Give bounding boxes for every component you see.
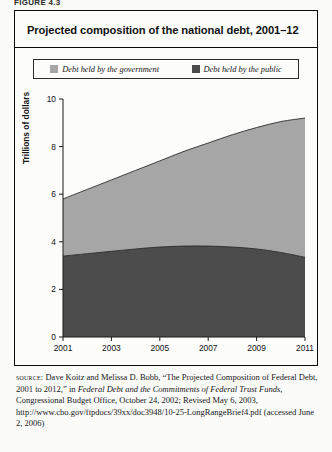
svg-text:2005: 2005: [150, 343, 169, 353]
svg-text:0: 0: [51, 332, 56, 342]
svg-text:2001: 2001: [54, 343, 73, 353]
legend-item-public: Debt held by the public: [192, 65, 282, 74]
source-italic-1: Federal Debt and the Commitments of Fede…: [78, 384, 281, 394]
svg-text:10: 10: [47, 94, 57, 104]
stacked-area-chart: 0246810200120032005200720092011: [15, 87, 319, 363]
legend-label-public: Debt held by the public: [204, 65, 282, 74]
plot-area: Trillions of dollars 0246810200120032005…: [15, 87, 319, 363]
svg-text:4: 4: [51, 237, 56, 247]
title-divider: [15, 47, 317, 48]
chart-title: Projected composition of the national de…: [27, 24, 299, 36]
chart-legend: Debt held by the government Debt held by…: [33, 59, 299, 79]
svg-text:2003: 2003: [102, 343, 121, 353]
figure-label: FIGURE 4.3: [14, 0, 61, 7]
svg-text:2: 2: [51, 284, 56, 294]
legend-label-government: Debt held by the government: [62, 65, 159, 74]
legend-item-government: Debt held by the government: [50, 65, 159, 74]
svg-text:8: 8: [51, 142, 56, 152]
svg-text:6: 6: [51, 189, 56, 199]
legend-swatch-public: [192, 65, 200, 73]
source-note: source: Dave Koitz and Melissa D. Bobb, …: [16, 372, 318, 430]
source-keyword: source:: [16, 373, 43, 382]
figure-box: Projected composition of the national de…: [14, 10, 318, 366]
svg-text:2009: 2009: [247, 343, 266, 353]
svg-text:2011: 2011: [296, 343, 314, 353]
svg-text:2007: 2007: [199, 343, 218, 353]
legend-swatch-government: [50, 65, 58, 73]
